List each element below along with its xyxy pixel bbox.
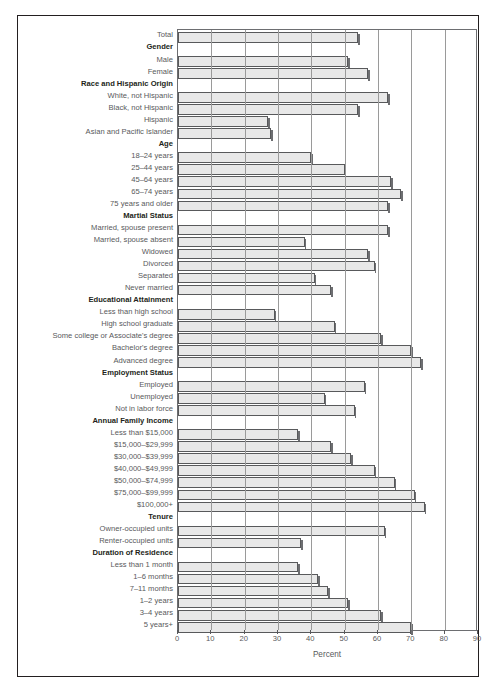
plot-area: [177, 29, 477, 631]
category-label: White, not Hispanic: [1, 91, 173, 100]
bar: [178, 164, 345, 175]
bar: [178, 92, 388, 103]
category-labels: TotalGenderMaleFemaleRace and Hispanic O…: [0, 29, 176, 631]
group-header-label: Employment Status: [1, 368, 173, 377]
category-label: 65–74 years: [1, 187, 173, 196]
category-label: Less than 1 month: [1, 560, 173, 569]
category-label: Employed: [1, 380, 173, 389]
tick-label-20: 20: [232, 634, 256, 643]
category-label: Some college or Associate's degree: [1, 331, 173, 340]
bar: [178, 586, 328, 597]
category-label: $15,000–$29,999: [1, 440, 173, 449]
bar: [178, 273, 315, 284]
bar: [178, 201, 388, 212]
bar: [178, 333, 381, 344]
category-label: 1–2 years: [1, 596, 173, 605]
group-header-label: Age: [1, 139, 173, 148]
category-label: $40,000–$49,999: [1, 464, 173, 473]
gridline-40: [311, 30, 312, 630]
category-label: Male: [1, 55, 173, 64]
tick-label-40: 40: [298, 634, 322, 643]
tick-label-10: 10: [198, 634, 222, 643]
category-label: Asian and Pacific Islander: [1, 127, 173, 136]
bar: [178, 405, 355, 416]
group-header-label: Annual Family Income: [1, 416, 173, 425]
category-label: 25–44 years: [1, 163, 173, 172]
group-header-label: Duration of Residence: [1, 548, 173, 557]
category-label: Less than high school: [1, 307, 173, 316]
bar: [178, 128, 271, 139]
category-label: Hispanic: [1, 115, 173, 124]
category-label: 45–64 years: [1, 175, 173, 184]
category-label: Separated: [1, 271, 173, 280]
bar: [178, 562, 298, 573]
bar: [178, 68, 368, 79]
tick-label-90: 90: [465, 634, 489, 643]
category-label: Not in labor force: [1, 404, 173, 413]
category-label: Female: [1, 67, 173, 76]
category-label: $50,000–$74,999: [1, 476, 173, 485]
bar: [178, 610, 381, 621]
gridline-20: [245, 30, 246, 630]
category-label: Black, not Hispanic: [1, 103, 173, 112]
gridline-10: [211, 30, 212, 630]
bar: [178, 441, 331, 452]
category-label: High school graduate: [1, 319, 173, 328]
bar: [178, 285, 331, 296]
category-label: Unemployed: [1, 392, 173, 401]
bar: [178, 490, 415, 501]
group-header-label: Race and Hispanic Origin: [1, 79, 173, 88]
bar: [178, 32, 358, 43]
gridline-50: [345, 30, 346, 630]
category-label: Less than $15,000: [1, 428, 173, 437]
group-header-label: Tenure: [1, 512, 173, 521]
category-label: 18–24 years: [1, 151, 173, 160]
bar: [178, 176, 391, 187]
category-label: Renter-occupied units: [1, 536, 173, 545]
category-label: 1–6 months: [1, 572, 173, 581]
bar: [178, 225, 388, 236]
category-label: Bachelor's degree: [1, 343, 173, 352]
category-label: Advanced degree: [1, 356, 173, 365]
bar: [178, 429, 298, 440]
bar: [178, 116, 268, 127]
x-axis-ticks: 0102030405060708090: [0, 634, 497, 650]
tick-label-0: 0: [165, 634, 189, 643]
bar: [178, 538, 301, 549]
category-label: 3–4 years: [1, 608, 173, 617]
category-label: 7–11 months: [1, 584, 173, 593]
tick-label-60: 60: [365, 634, 389, 643]
category-label: $30,000–$39,999: [1, 452, 173, 461]
category-label: Divorced: [1, 259, 173, 268]
category-label: Owner-occupied units: [1, 524, 173, 533]
category-label: Total: [1, 30, 173, 39]
group-header-label: Martial Status: [1, 211, 173, 220]
bar: [178, 526, 385, 537]
bar: [178, 598, 348, 609]
category-label: $75,000–$99,999: [1, 488, 173, 497]
category-label: 5 years+: [1, 620, 173, 629]
category-label: 75 years and older: [1, 199, 173, 208]
tick-label-50: 50: [332, 634, 356, 643]
figure-page: TotalGenderMaleFemaleRace and Hispanic O…: [0, 0, 497, 692]
bar: [178, 502, 425, 513]
group-header-label: Gender: [1, 42, 173, 51]
bar: [178, 574, 318, 585]
bar: [178, 237, 305, 248]
bar-rows: [178, 30, 476, 630]
bar-chart: TotalGenderMaleFemaleRace and Hispanic O…: [0, 0, 497, 692]
tick-label-80: 80: [432, 634, 456, 643]
bar: [178, 104, 358, 115]
bar: [178, 357, 421, 368]
tick-label-70: 70: [398, 634, 422, 643]
bar: [178, 345, 411, 356]
group-header-label: Educational Attainment: [1, 295, 173, 304]
gridline-80: [445, 30, 446, 630]
category-label: Married, spouse absent: [1, 235, 173, 244]
tick-label-30: 30: [265, 634, 289, 643]
x-axis-label: Percent: [177, 650, 477, 659]
category-label: Married, spouse present: [1, 223, 173, 232]
gridline-70: [411, 30, 412, 630]
category-label: Never married: [1, 283, 173, 292]
gridline-60: [378, 30, 379, 630]
